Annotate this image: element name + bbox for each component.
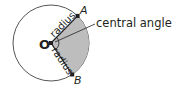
label-b: B [74, 74, 82, 87]
central-angle-diagram: O A B radius radius central angle [0, 0, 173, 87]
label-central-angle: central angle [96, 16, 172, 30]
label-a: A [79, 4, 88, 17]
label-o: O [39, 37, 50, 52]
